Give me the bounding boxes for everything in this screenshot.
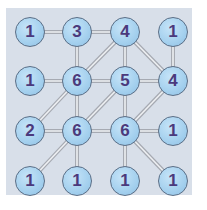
island-value: 1	[72, 171, 81, 191]
island-value: 1	[168, 22, 177, 42]
island-value: 4	[168, 71, 177, 91]
island-node-r4c4[interactable]: 1	[158, 166, 188, 196]
island-value: 6	[120, 121, 129, 141]
island-value: 3	[72, 22, 81, 42]
island-value: 1	[25, 171, 34, 191]
island-node-r2c4[interactable]: 4	[158, 66, 188, 96]
island-node-r1c4[interactable]: 1	[158, 17, 188, 47]
island-node-r1c3[interactable]: 4	[110, 17, 140, 47]
island-node-r3c1[interactable]: 2	[15, 116, 45, 146]
island-node-r2c1[interactable]: 1	[15, 66, 45, 96]
island-value: 1	[168, 121, 177, 141]
island-node-r3c3[interactable]: 6	[110, 116, 140, 146]
island-value: 2	[25, 121, 34, 141]
island-node-r2c2[interactable]: 6	[62, 66, 92, 96]
island-node-r1c1[interactable]: 1	[15, 17, 45, 47]
island-node-r4c2[interactable]: 1	[62, 166, 92, 196]
island-value: 1	[25, 22, 34, 42]
island-value: 4	[120, 22, 129, 42]
island-node-r2c3[interactable]: 5	[110, 66, 140, 96]
island-value: 6	[72, 121, 81, 141]
island-value: 1	[168, 171, 177, 191]
island-node-r4c1[interactable]: 1	[15, 166, 45, 196]
island-value: 1	[120, 171, 129, 191]
island-value: 1	[25, 71, 34, 91]
island-node-r3c2[interactable]: 6	[62, 116, 92, 146]
island-node-r3c4[interactable]: 1	[158, 116, 188, 146]
island-node-r4c3[interactable]: 1	[110, 166, 140, 196]
island-value: 6	[72, 71, 81, 91]
island-value: 5	[120, 71, 129, 91]
island-node-r1c2[interactable]: 3	[62, 17, 92, 47]
